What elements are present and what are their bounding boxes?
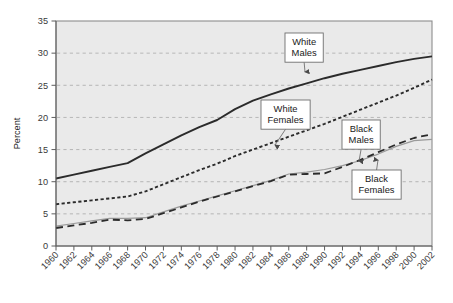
y-tick-label: 25 [38, 81, 48, 91]
x-tick-label: 1994 [343, 250, 365, 272]
annotation-label-white-females: White [274, 103, 298, 114]
annotation-label-black-females: Females [359, 184, 395, 195]
annotation-label-white-females: Females [268, 114, 304, 125]
x-tick-label: 1962 [57, 250, 79, 272]
x-tick-label: 1992 [326, 250, 348, 272]
annotation-label-white-males: Males [292, 47, 317, 58]
x-tick-label: 1968 [111, 250, 133, 272]
x-tick-label: 1990 [308, 250, 330, 272]
x-tick-label: 1966 [93, 250, 115, 272]
x-tick-label: 1974 [164, 250, 186, 272]
y-tick-label: 10 [38, 177, 48, 187]
x-tick-label: 1960 [39, 250, 61, 272]
annotation-label-white-males: White [292, 36, 316, 47]
annotation-label-black-females: Black [365, 173, 388, 184]
y-tick-label: 30 [38, 48, 48, 58]
annotation-label-black-males: Black [350, 123, 373, 134]
x-tick-label: 1978 [200, 250, 222, 272]
x-tick-label: 1996 [361, 250, 383, 272]
x-axis-ticks: 1960196219641966196819701972197419761978… [39, 246, 437, 271]
x-tick-label: 2002 [415, 250, 437, 272]
x-tick-label: 1986 [272, 250, 294, 272]
y-tick-label: 15 [38, 145, 48, 155]
y-tick-label: 20 [38, 113, 48, 123]
x-tick-label: 1976 [182, 250, 204, 272]
x-tick-label: 1964 [75, 250, 97, 272]
x-tick-label: 1970 [129, 250, 151, 272]
x-tick-label: 1984 [254, 250, 276, 272]
annotation-label-black-males: Males [349, 134, 374, 145]
y-tick-label: 35 [38, 16, 48, 26]
y-axis-ticks: 05101520253035 [38, 16, 56, 251]
y-tick-label: 5 [43, 209, 48, 219]
x-tick-label: 1982 [236, 250, 258, 272]
x-tick-label: 1980 [218, 250, 240, 272]
chart-container: 05101520253035 1960196219641966196819701… [0, 0, 453, 303]
x-tick-label: 1988 [290, 250, 312, 272]
x-tick-label: 2000 [397, 250, 419, 272]
y-tick-label: 0 [43, 241, 48, 251]
y-axis-title: Percent [12, 117, 22, 149]
x-tick-label: 1972 [147, 250, 169, 272]
y-axis-title-text: Percent [12, 117, 22, 149]
x-tick-label: 1998 [379, 250, 401, 272]
line-chart: 05101520253035 1960196219641966196819701… [0, 0, 453, 303]
